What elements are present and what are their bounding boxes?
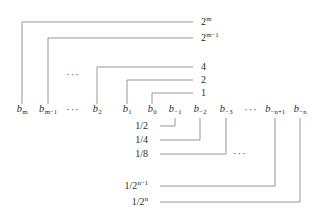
binary-place-value-diagram: bmbm−1b2b1b0b−1b−2b−3b−n+1b−n 2m2m−1421 … — [0, 0, 321, 218]
bit-subscript: −n — [299, 108, 306, 115]
lower-connectors-group — [160, 118, 300, 202]
bit-subscript: −2 — [199, 108, 206, 115]
weight-label-w-2m-1: 2m−1 — [201, 33, 219, 43]
connector-conn-b-neg-1 — [160, 118, 175, 126]
connector-conn-b-neg-2 — [160, 118, 200, 140]
bit-base-letter: b — [39, 103, 44, 114]
bit-base-letter: b — [169, 103, 174, 114]
weight-exponent: m−1 — [206, 31, 219, 38]
connector-conn-b-1 — [127, 80, 193, 104]
weight-value: 1/2 — [125, 180, 138, 191]
connector-conn-b-2 — [97, 67, 193, 104]
bit-subscript: −n+1 — [271, 108, 285, 115]
bit-subscript: 2 — [98, 108, 101, 115]
weight-label-w-1-8: 1/8 — [135, 149, 148, 159]
weight-value: 2 — [201, 74, 206, 85]
bit-label-b-m-1: bm−1 — [39, 104, 57, 115]
bit-subscript: −1 — [174, 108, 181, 115]
weight-label-w-1-4: 1/4 — [135, 135, 148, 145]
bit-label-b-neg-2: b−2 — [194, 104, 206, 115]
ellipsis-upper-left: ··· — [66, 70, 79, 80]
connector-conn-b-neg-3 — [160, 118, 226, 154]
weight-label-w-1-2: 1/2 — [135, 121, 148, 131]
bit-label-b-1: b1 — [123, 104, 132, 115]
bit-label-b-neg-3: b−3 — [220, 104, 232, 115]
bit-base-letter: b — [93, 103, 98, 114]
bit-label-b-m: bm — [17, 104, 28, 115]
weight-value: 4 — [201, 61, 206, 72]
weight-label-w-1-2n: 1/2n — [132, 197, 148, 207]
bit-base-letter: b — [17, 103, 22, 114]
weight-exponent: m — [206, 15, 211, 22]
bit-base-letter: b — [148, 103, 153, 114]
bit-subscript: 1 — [128, 108, 131, 115]
weight-label-w-2m: 2m — [201, 17, 211, 27]
bit-label-b-neg-n: b−n — [294, 104, 306, 115]
bit-subscript: m — [22, 108, 27, 115]
weight-value: 1/2 — [132, 196, 145, 207]
weight-label-w-4: 4 — [201, 62, 206, 72]
connector-conn-b-neg-n-1 — [160, 118, 275, 186]
weight-value: 1 — [201, 87, 206, 98]
bit-subscript: −3 — [225, 108, 232, 115]
bit-label-b-neg-n-1: b−n+1 — [265, 104, 285, 115]
weight-label-w-1-2n-1: 1/2n−1 — [125, 181, 148, 191]
bit-base-letter: b — [294, 103, 299, 114]
weight-value: 1/8 — [135, 148, 148, 159]
bit-base-letter: b — [123, 103, 128, 114]
bit-label-b-2: b2 — [93, 104, 102, 115]
connector-conn-b-neg-n — [160, 118, 300, 202]
bit-base-letter: b — [194, 103, 199, 114]
weight-exponent: n−1 — [138, 179, 149, 186]
bit-subscript: 0 — [153, 108, 156, 115]
ellipsis-bit-row: ··· — [66, 105, 79, 115]
upper-connectors-group — [22, 22, 193, 104]
bit-base-letter: b — [220, 103, 225, 114]
weight-value: 1/2 — [135, 120, 148, 131]
bit-label-b-neg-1: b−1 — [169, 104, 181, 115]
weight-label-w-1: 1 — [201, 88, 206, 98]
weight-value: 1/4 — [135, 134, 148, 145]
weight-exponent: n — [145, 195, 148, 202]
bit-base-letter: b — [265, 103, 270, 114]
bit-label-b-0: b0 — [148, 104, 157, 115]
weight-label-w-2: 2 — [201, 75, 206, 85]
bit-subscript: m−1 — [45, 108, 58, 115]
ellipsis-lower-right: ··· — [233, 149, 246, 159]
ellipsis-bit-row-right: ··· — [244, 105, 257, 115]
